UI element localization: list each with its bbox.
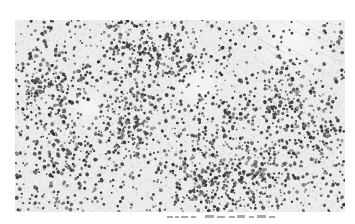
figure-caption (165, 215, 285, 224)
histology-micrograph (15, 20, 345, 212)
tissue-image (15, 20, 345, 212)
figure (0, 0, 355, 224)
caption-clipped-glyphs (165, 215, 285, 224)
